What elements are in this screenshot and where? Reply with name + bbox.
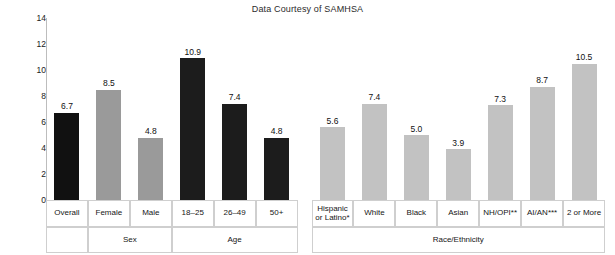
bar[interactable] [320, 127, 345, 200]
category-cell: Overall [46, 200, 88, 227]
y-tick-6: 6 [12, 117, 46, 127]
bar-group[interactable]: 8.7 [521, 18, 563, 200]
bar[interactable] [572, 64, 597, 201]
category-cell: AI/AN*** [521, 200, 563, 227]
y-tick-12: 12 [12, 39, 46, 49]
bar-value-label: 5.0 [410, 125, 422, 134]
category-cell: Hispanicor Latino* [312, 200, 354, 227]
category-cell: 50+ [256, 200, 298, 227]
plot-area: 6.78.54.810.97.44.85.67.45.03.97.38.710.… [46, 18, 605, 200]
category-cell: Female [88, 200, 130, 227]
y-tick-4: 4 [12, 143, 46, 153]
bar[interactable] [96, 90, 121, 201]
bar[interactable] [446, 149, 471, 200]
y-tick-0: 0 [12, 195, 46, 205]
bar[interactable] [54, 113, 79, 200]
y-tick-2: 2 [12, 169, 46, 179]
bar-group[interactable]: 4.8 [256, 18, 298, 200]
bar[interactable] [138, 138, 163, 200]
bar-value-label: 3.9 [452, 139, 464, 148]
chart-title: Data Courtesy of SAMHSA [0, 4, 615, 14]
y-tick-8: 8 [12, 91, 46, 101]
y-tick-10: 10 [12, 65, 46, 75]
bar-group[interactable]: 5.6 [312, 18, 354, 200]
bar-group[interactable]: 10.9 [172, 18, 214, 200]
bar[interactable] [404, 135, 429, 200]
bar-value-label: 8.5 [103, 79, 115, 88]
category-cell: 18–25 [172, 200, 214, 227]
bar-value-label: 7.4 [369, 93, 381, 102]
group-cell-sex: Sex [88, 227, 172, 253]
group-cell-age: Age [172, 227, 298, 253]
bar-value-label: 7.3 [494, 95, 506, 104]
category-cell: White [353, 200, 395, 227]
bar-group[interactable]: 3.9 [437, 18, 479, 200]
y-axis: Percent 02468101214 [0, 18, 46, 200]
bar-value-label: 5.6 [327, 117, 339, 126]
bar-group[interactable]: 8.5 [88, 18, 130, 200]
category-cell: 2 or More [563, 200, 605, 227]
bar-value-label: 8.7 [536, 76, 548, 85]
bar-group[interactable]: 4.8 [130, 18, 172, 200]
category-cell: 26–49 [214, 200, 256, 227]
category-cell: Black [395, 200, 437, 227]
bar-group[interactable]: 5.0 [395, 18, 437, 200]
group-cell-empty [46, 227, 88, 253]
bar-value-label: 10.5 [576, 53, 593, 62]
bar-value-label: 4.8 [145, 127, 157, 136]
bar[interactable] [362, 104, 387, 200]
category-cell: Asian [437, 200, 479, 227]
bar-value-label: 7.4 [229, 93, 241, 102]
chart-root: Data Courtesy of SAMHSA Percent 02468101… [0, 0, 615, 255]
bar-value-label: 6.7 [61, 102, 73, 111]
bar[interactable] [180, 58, 205, 200]
bar[interactable] [264, 138, 289, 200]
bar-group[interactable]: 7.3 [479, 18, 521, 200]
bar-group[interactable]: 7.4 [214, 18, 256, 200]
bar-group[interactable]: 10.5 [563, 18, 605, 200]
bar[interactable] [222, 104, 247, 200]
bar-group[interactable]: 6.7 [46, 18, 88, 200]
bar-group[interactable]: 7.4 [353, 18, 395, 200]
bar[interactable] [530, 87, 555, 200]
y-tick-14: 14 [12, 13, 46, 23]
bar-value-label: 4.8 [271, 127, 283, 136]
bar[interactable] [488, 105, 513, 200]
category-cell: Male [130, 200, 172, 227]
bar-value-label: 10.9 [184, 48, 201, 57]
category-label-table: OverallFemaleMale18–2526–4950+Hispanicor… [46, 200, 605, 253]
category-cell: NH/OPI** [479, 200, 521, 227]
group-cell-race-ethnicity: Race/Ethnicity [312, 227, 605, 253]
